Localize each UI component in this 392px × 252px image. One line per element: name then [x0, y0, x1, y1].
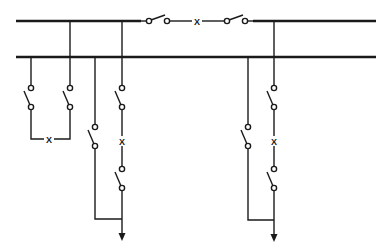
switch-blade-icon	[151, 15, 165, 20]
breaker-icon: X	[46, 135, 52, 145]
breaker-icon: X	[119, 137, 125, 147]
switch-blade-icon	[241, 130, 247, 144]
single-line-diagram: X X X	[0, 0, 392, 252]
contact-icon	[28, 104, 33, 109]
contact-icon	[271, 166, 276, 171]
contact-icon	[119, 166, 124, 171]
contact-icon	[119, 185, 124, 190]
contact-icon	[245, 124, 250, 129]
contact-icon	[67, 85, 72, 90]
feeder-left: X	[88, 21, 126, 241]
bus-section: X	[24, 21, 73, 145]
arrow-down-icon	[119, 233, 126, 241]
contact-icon	[245, 143, 250, 148]
contact-icon	[92, 143, 97, 148]
feeder-right: X	[241, 21, 278, 242]
bus-coupler: X	[141, 15, 253, 27]
contact-icon	[271, 104, 276, 109]
contact-icon	[224, 18, 229, 23]
switch-blade-icon	[63, 91, 69, 105]
arrow-down-icon	[271, 234, 278, 242]
contact-icon	[119, 85, 124, 90]
contact-icon	[271, 85, 276, 90]
contact-icon	[92, 124, 97, 129]
switch-blade-icon	[267, 91, 273, 105]
switch-blade-icon	[115, 91, 121, 105]
switch-blade-icon	[229, 15, 243, 20]
switch-blade-icon	[115, 172, 121, 186]
switch-blade-icon	[24, 91, 30, 105]
contact-icon	[67, 104, 72, 109]
breaker-icon: X	[271, 137, 277, 147]
contact-icon	[271, 185, 276, 190]
contact-icon	[119, 104, 124, 109]
contact-icon	[146, 18, 151, 23]
switch-blade-icon	[267, 172, 273, 186]
switch-blade-icon	[88, 130, 94, 144]
breaker-icon: X	[194, 17, 200, 27]
contact-icon	[28, 85, 33, 90]
contact-icon	[242, 18, 247, 23]
contact-icon	[164, 18, 169, 23]
